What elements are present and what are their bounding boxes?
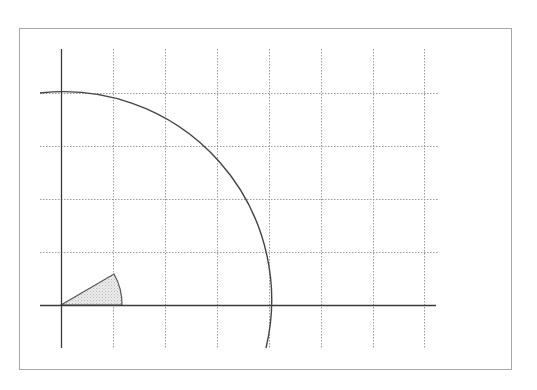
diagram-canvas <box>0 0 537 390</box>
circle-arc <box>40 92 272 348</box>
shaded-angle-sector <box>61 274 122 305</box>
unit-circle-diagram <box>0 0 537 390</box>
horizontal-gridlines <box>40 94 438 253</box>
